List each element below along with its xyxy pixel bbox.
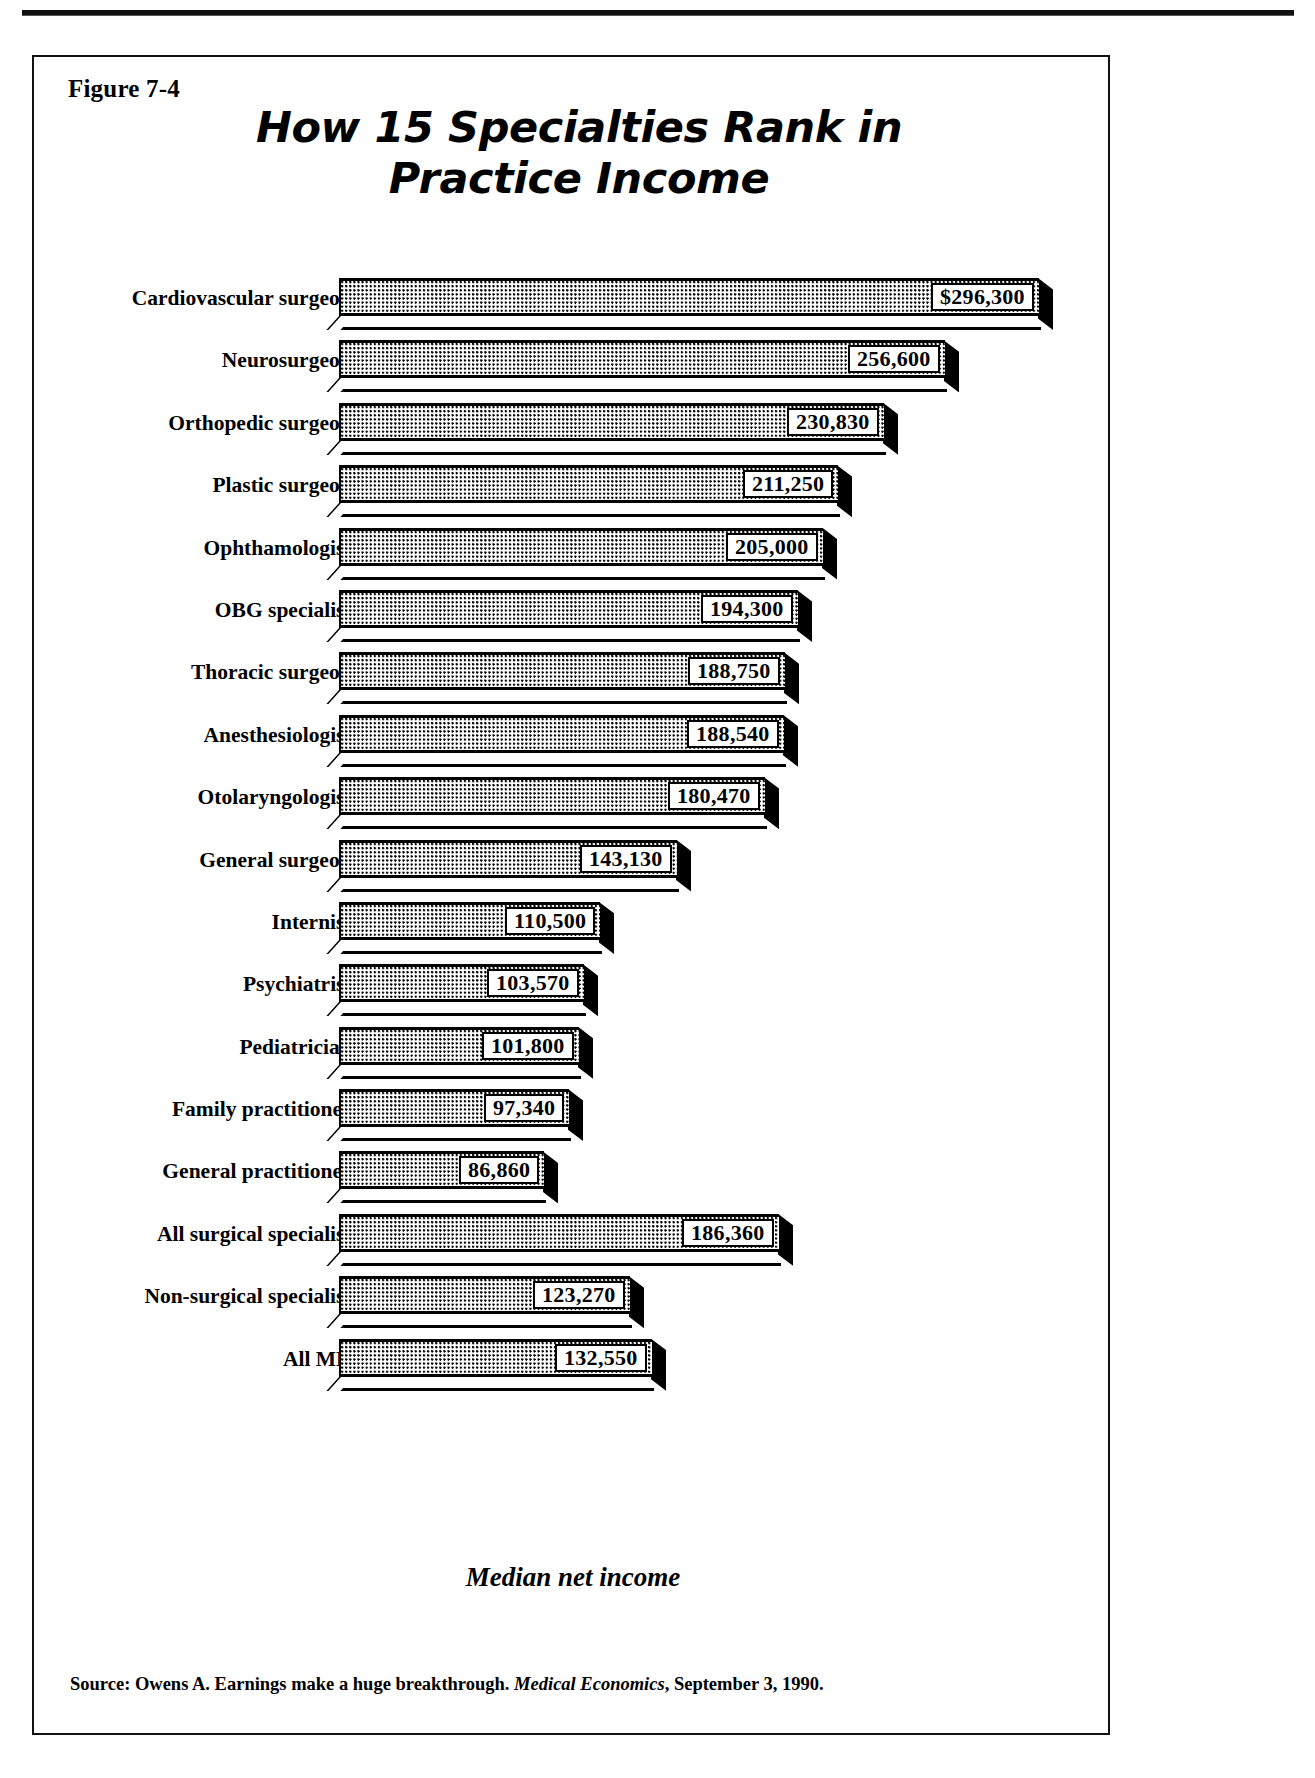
chart-row: Plastic surgeons211,250 xyxy=(34,459,1112,521)
chart-row: Psychiatrists103,570 xyxy=(34,958,1112,1020)
bar-shadow-face xyxy=(339,815,767,829)
figure-title: How 15 Specialties Rank in Practice Inco… xyxy=(154,102,1004,203)
axis-caption: Median net income xyxy=(34,1562,1112,1593)
bar-family-practitioners: 97,340 xyxy=(339,1089,585,1141)
bar-cardiovascular-surgeons: $296,300 xyxy=(339,278,1055,330)
bar-label-orthopedic-surgeons: Orthopedic surgeons xyxy=(0,411,360,436)
bar-otolaryngologists: 180,470 xyxy=(339,777,781,829)
bar-all-mds: 132,550 xyxy=(339,1339,668,1391)
chart-row: Internists110,500 xyxy=(34,896,1112,958)
bar-thoracic-surgeons: 188,750 xyxy=(339,652,801,704)
bar-general-practitioners: 86,860 xyxy=(339,1151,560,1203)
bar-label-ophthamologists: Ophthamologists xyxy=(0,536,360,561)
bar-shadow-face xyxy=(339,753,786,767)
bar-value-neurosurgeons: 256,600 xyxy=(848,345,940,373)
chart-row: Ophthamologists205,000 xyxy=(34,522,1112,584)
bar-shadow-face xyxy=(339,1252,781,1266)
chart-row: Non-surgical specialists123,270 xyxy=(34,1270,1112,1332)
bar-value-otolaryngologists: 180,470 xyxy=(668,782,760,810)
bar-value-non-surgical-specialists: 123,270 xyxy=(533,1281,625,1309)
chart-row: All surgical specialists186,360 xyxy=(34,1208,1112,1270)
chart-row: Anesthesiologists188,540 xyxy=(34,709,1112,771)
chart-row: Otolaryngologists180,470 xyxy=(34,771,1112,833)
figure-frame: Figure 7-4 How 15 Specialties Rank in Pr… xyxy=(32,55,1110,1735)
chart-row: OBG specialists194,300 xyxy=(34,584,1112,646)
bar-obg-specialists: 194,300 xyxy=(339,590,814,642)
chart-row: All MDs132,550 xyxy=(34,1333,1112,1395)
bar-label-psychiatrists: Psychiatrists xyxy=(0,972,360,997)
bar-label-non-surgical-specialists: Non-surgical specialists xyxy=(0,1284,360,1309)
bar-value-all-mds: 132,550 xyxy=(555,1344,647,1372)
chart-row: General practitioners86,860 xyxy=(34,1145,1112,1207)
bar-label-thoracic-surgeons: Thoracic surgeons xyxy=(0,660,360,685)
bar-ophthamologists: 205,000 xyxy=(339,528,839,580)
bar-label-neurosurgeons: Neurosurgeons xyxy=(0,348,360,373)
bar-value-general-surgeons: 143,130 xyxy=(580,845,672,873)
bar-general-surgeons: 143,130 xyxy=(339,840,693,892)
bar-value-anesthesiologists: 188,540 xyxy=(687,720,779,748)
bar-shadow-face xyxy=(339,566,825,580)
chart-row: Family practitioners97,340 xyxy=(34,1083,1112,1145)
bar-chart: Cardiovascular surgeons$296,300Neurosurg… xyxy=(34,272,1112,1395)
bar-label-general-practitioners: General practitioners xyxy=(0,1159,360,1184)
bar-non-surgical-specialists: 123,270 xyxy=(339,1276,646,1328)
bar-pediatricians: 101,800 xyxy=(339,1027,595,1079)
bar-value-all-surgical-specialists: 186,360 xyxy=(682,1219,774,1247)
bar-label-otolaryngologists: Otolaryngologists xyxy=(0,785,360,810)
bar-shadow-face xyxy=(339,1002,586,1016)
bar-label-all-mds: All MDs xyxy=(0,1347,360,1372)
bar-shadow-face xyxy=(339,1189,546,1203)
bar-label-family-practitioners: Family practitioners xyxy=(0,1097,360,1122)
bar-neurosurgeons: 256,600 xyxy=(339,340,961,392)
chart-row: Thoracic surgeons188,750 xyxy=(34,646,1112,708)
bar-value-obg-specialists: 194,300 xyxy=(701,595,793,623)
bar-value-general-practitioners: 86,860 xyxy=(459,1156,539,1184)
bar-value-thoracic-surgeons: 188,750 xyxy=(688,657,780,685)
bar-value-ophthamologists: 205,000 xyxy=(726,533,818,561)
source-journal: Medical Economics xyxy=(514,1674,665,1694)
bar-value-internists: 110,500 xyxy=(505,907,595,935)
bar-shadow-face xyxy=(339,378,947,392)
figure-number: Figure 7-4 xyxy=(68,75,180,103)
bar-all-surgical-specialists: 186,360 xyxy=(339,1214,795,1266)
chart-row: Orthopedic surgeons230,830 xyxy=(34,397,1112,459)
bar-orthopedic-surgeons: 230,830 xyxy=(339,403,900,455)
chart-row: Neurosurgeons256,600 xyxy=(34,334,1112,396)
bar-label-pediatricians: Pediatricians xyxy=(0,1035,360,1060)
bar-shadow-face xyxy=(339,441,886,455)
bar-internists: 110,500 xyxy=(339,902,616,954)
bar-shadow-face xyxy=(339,940,602,954)
bar-label-cardiovascular-surgeons: Cardiovascular surgeons xyxy=(0,286,360,311)
bar-shadow-face xyxy=(339,1065,581,1079)
bar-value-pediatricians: 101,800 xyxy=(482,1032,574,1060)
source-note: Source: Owens A. Earnings make a huge br… xyxy=(70,1672,1080,1696)
bar-label-plastic-surgeons: Plastic surgeons xyxy=(0,473,360,498)
bar-shadow-face xyxy=(339,690,787,704)
bar-plastic-surgeons: 211,250 xyxy=(339,465,854,517)
bar-label-anesthesiologists: Anesthesiologists xyxy=(0,723,360,748)
bar-shadow-face xyxy=(339,878,679,892)
bar-value-plastic-surgeons: 211,250 xyxy=(743,470,833,498)
source-text: Source: Owens A. Earnings make a huge br… xyxy=(70,1674,514,1694)
bar-shadow-face xyxy=(339,628,800,642)
bar-psychiatrists: 103,570 xyxy=(339,964,600,1016)
bar-shadow-face xyxy=(339,316,1041,330)
bar-label-obg-specialists: OBG specialists xyxy=(0,598,360,623)
bar-shadow-face xyxy=(339,1377,654,1391)
bar-anesthesiologists: 188,540 xyxy=(339,715,800,767)
page-top-rule-hairline xyxy=(22,15,1294,16)
figure-title-line-1: How 15 Specialties Rank in xyxy=(154,102,1004,153)
bar-value-psychiatrists: 103,570 xyxy=(487,969,579,997)
bar-value-orthopedic-surgeons: 230,830 xyxy=(787,408,879,436)
source-date: , September 3, 1990. xyxy=(665,1674,824,1694)
chart-row: General surgeons143,130 xyxy=(34,834,1112,896)
chart-row: Pediatricians101,800 xyxy=(34,1021,1112,1083)
bar-label-internists: Internists xyxy=(0,910,360,935)
bar-shadow-face xyxy=(339,503,840,517)
bar-shadow-face xyxy=(339,1127,571,1141)
chart-row: Cardiovascular surgeons$296,300 xyxy=(34,272,1112,334)
bar-label-all-surgical-specialists: All surgical specialists xyxy=(0,1222,360,1247)
figure-title-line-2: Practice Income xyxy=(154,153,1004,204)
bar-shadow-face xyxy=(339,1314,632,1328)
bar-value-family-practitioners: 97,340 xyxy=(484,1094,564,1122)
